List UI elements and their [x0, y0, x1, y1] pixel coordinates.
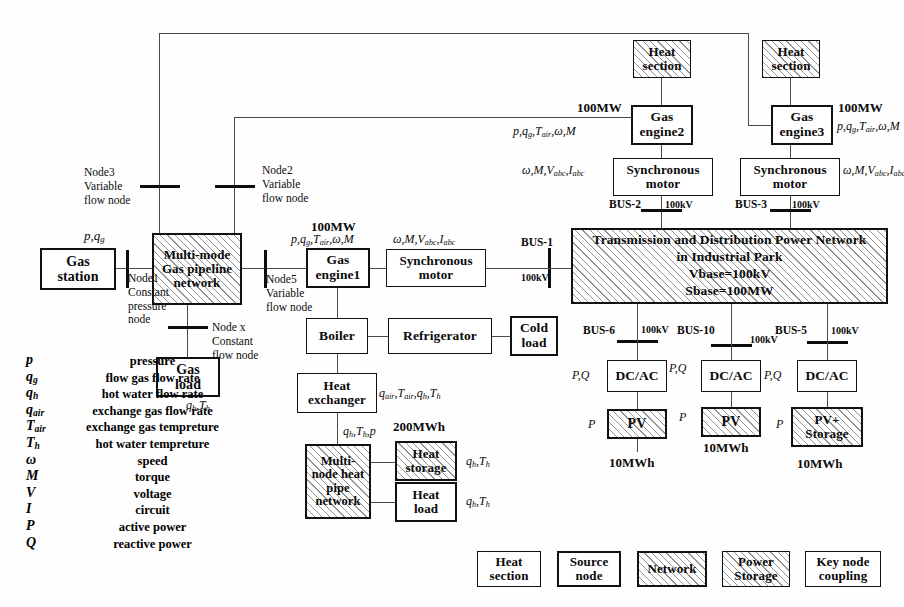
block-dcac-2[interactable]: DC/AC [701, 360, 761, 392]
wire-station-to-node1 [116, 268, 154, 269]
node5-label: Node5Variableflow node [266, 272, 312, 314]
block-tdpn[interactable]: Transmission and Distribution Power Netw… [571, 228, 888, 304]
nomenclature-symbol: Q [26, 535, 36, 551]
heat-section3-label: Heatsection [763, 45, 819, 73]
motor2-flow-label: ω,M,Vabc,Iabc [522, 163, 584, 178]
bus1-label: BUS-1 [521, 236, 553, 248]
gas-station-flow-label: p,qg [84, 228, 105, 244]
wire-tdpn-to-bus10 [731, 304, 732, 346]
wire-pipeline-to-gasload [187, 305, 188, 357]
block-cold-load[interactable]: Coldload [510, 316, 558, 356]
heat-exchanger-label: Heatexchanger [298, 379, 376, 407]
block-sync-motor1[interactable]: Synchronousmotor [386, 249, 486, 287]
dcac3-label: DC/AC [798, 369, 856, 384]
p-label-2: P [679, 410, 686, 425]
refrigerator-label: Refrigerator [389, 329, 491, 344]
block-pv-2[interactable]: PV [701, 407, 761, 437]
heat-storage-rating: 200MWh [393, 419, 445, 435]
engine1-flow-label: p,qg,Tair,ω,M [291, 232, 354, 247]
boiler-label: Boiler [307, 329, 367, 344]
wire-bus1-to-tdpn [548, 268, 572, 269]
wire-tdpn-to-bus5 [827, 304, 828, 344]
nomenclature-description: circuit [60, 503, 245, 518]
block-pv-1[interactable]: PV [607, 409, 667, 439]
nomenclature-symbol: Tair [26, 418, 46, 434]
block-gas-station[interactable]: Gasstation [40, 248, 116, 290]
block-dcac-3[interactable]: DC/AC [797, 360, 857, 392]
wire-tdpn-to-bus6 [637, 304, 638, 342]
key-heat-section-label: Heatsection [478, 555, 540, 583]
wire-pipeline-to-node5 [242, 268, 312, 269]
bus10-label: BUS-10 [677, 324, 715, 336]
dcac1-label: DC/AC [608, 369, 666, 384]
key-legend-heat-section: Heatsection [477, 551, 541, 587]
block-heat-section3[interactable]: Heatsection [762, 40, 820, 78]
nomenclature-description: pressure [60, 354, 245, 369]
wire-boiler-to-refrigerator [368, 336, 388, 337]
heat-storage-flow-label: qh,Th [466, 454, 490, 469]
wire-bus6-to-dcac1 [637, 340, 638, 362]
key-legend-key-node-coupling: Key nodecoupling [805, 551, 881, 587]
node2-label: Node2Variableflow node [262, 163, 308, 205]
bus-node2 [215, 185, 255, 188]
wire-engine1-to-motor1 [370, 268, 386, 269]
gas-engine3-label: Gasengine3 [773, 110, 831, 139]
sync-motor2-label: Synchronousmotor [614, 163, 712, 191]
bus1-kv: 100kV [521, 272, 549, 283]
nomenclature-description: active power [60, 520, 245, 535]
heat-load-label: Heatload [397, 488, 455, 516]
block-heat-storage[interactable]: Heatstorage [395, 441, 457, 481]
wire-engine2-feed [610, 117, 632, 118]
engine3-rating: 100MW [838, 100, 883, 116]
wire-bus5-to-dcac3 [827, 341, 828, 362]
wire-pv1-tail [637, 439, 638, 452]
key-source-node-label: Sourcenode [559, 555, 619, 583]
wire-node2-top-run [234, 117, 628, 118]
block-gas-engine3[interactable]: Gasengine3 [771, 105, 833, 145]
nomenclature-symbol: qh [26, 385, 38, 401]
nomenclature-description: exchange gas tempreture [60, 420, 245, 435]
block-refrigerator[interactable]: Refrigerator [388, 318, 492, 354]
bus5-kv: 100kV [831, 325, 859, 336]
block-boiler[interactable]: Boiler [306, 318, 368, 354]
block-heat-pipe-network[interactable]: Multi-node heatpipenetwork [305, 444, 371, 519]
nomenclature-symbol: qg [26, 369, 38, 385]
block-gas-engine2[interactable]: Gasengine2 [631, 105, 693, 145]
block-pv-3[interactable]: PV+Storage [791, 407, 863, 447]
block-sync-motor3[interactable]: Synchronousmotor [740, 158, 840, 196]
heat-exchanger-flow-label: qair,Tair,qh,Th [379, 386, 441, 401]
wire-engine3-feed [748, 125, 772, 126]
block-heat-section2[interactable]: Heatsection [633, 40, 691, 78]
nomenclature-symbol: I [26, 501, 31, 517]
pv2-label: PV [703, 414, 759, 429]
wire-pipeline-top-left [159, 185, 160, 233]
wire-exchanger-to-heatpipe [337, 413, 338, 445]
bus2-kv: 100kV [665, 199, 693, 210]
bus6-kv: 100kV [641, 324, 669, 335]
pv2-rating: 10MWh [703, 440, 749, 456]
node3-label: Node3Variableflow node [84, 165, 130, 207]
nomenclature-description: reactive power [60, 537, 245, 552]
nomenclature-symbol: p [26, 352, 33, 368]
block-heat-exchanger[interactable]: Heatexchanger [297, 373, 377, 413]
block-gas-engine1[interactable]: Gasengine1 [306, 248, 370, 288]
p-label-1: P [588, 417, 595, 432]
pv1-label: PV [609, 416, 665, 431]
diagram-canvas: Gasstation Multi-modeGas pipelinenetwork… [0, 0, 904, 607]
block-sync-motor2[interactable]: Synchronousmotor [613, 158, 713, 196]
block-dcac-1[interactable]: DC/AC [607, 360, 667, 392]
nomenclature-symbol: V [26, 485, 35, 501]
wire-node3-top-run [159, 33, 749, 34]
block-heat-load[interactable]: Heatload [395, 482, 457, 522]
nomenclature-symbol: Th [26, 435, 40, 451]
engine2-rating: 100MW [577, 100, 622, 116]
wire-heatsection2-to-engine2 [661, 78, 662, 106]
wire-to-engine3 [748, 33, 749, 126]
pv3-rating: 10MWh [797, 456, 843, 472]
tdpn-label: Transmission and Distribution Power Netw… [573, 232, 886, 300]
dcac2-label: DC/AC [702, 369, 760, 384]
bus3-kv: 100kV [792, 199, 820, 210]
nomenclature-symbol: M [26, 468, 38, 484]
heat-storage-label: Heatstorage [397, 447, 455, 475]
heat-pipe-label: Multi-node heatpipenetwork [307, 455, 369, 509]
